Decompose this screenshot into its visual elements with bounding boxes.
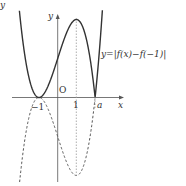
x-axis-label: x — [118, 100, 123, 110]
corner-label: y — [0, 0, 6, 10]
y-axis-label: y — [47, 11, 54, 21]
graph-figure: y y x O −1 1 a y=|f(x)−f(−1)| — [0, 0, 186, 186]
x-axis-arrow-icon — [119, 96, 124, 100]
tick-neg-one: −1 — [31, 102, 44, 112]
tick-a: a — [97, 100, 102, 110]
origin-label: O — [59, 85, 66, 95]
y-axis-arrow-icon — [56, 14, 60, 19]
tick-one: 1 — [73, 100, 79, 110]
curve-label: y=|f(x)−f(−1)| — [100, 49, 166, 60]
